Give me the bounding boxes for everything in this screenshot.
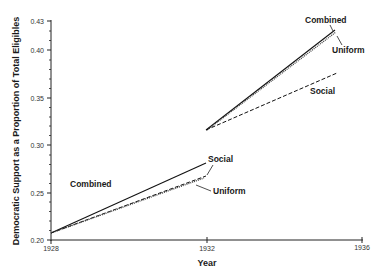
x-tick-label: 1928 (43, 245, 59, 252)
x-tick-label: 1932 (199, 245, 215, 252)
label-uniform-lower: Uniform (213, 186, 246, 196)
line-uniform-1932 (207, 32, 336, 130)
upper-segment: Combined Uniform Social (206, 15, 365, 130)
line-combined-1932 (206, 30, 335, 130)
y-tick-label: 0.35 (30, 95, 44, 102)
y-tick-label: 0.40 (30, 47, 44, 54)
x-tick-label: 1936 (354, 244, 370, 251)
y-axis: 0.20 0.25 0.30 0.35 0.40 0.43 Democratic… (11, 17, 51, 245)
y-tick-label: 0.20 (30, 237, 44, 244)
label-combined-lower: Combined (70, 179, 112, 189)
y-axis-title: Democratic Support as a Proportion of To… (11, 17, 21, 245)
x-axis-title: Year (197, 258, 217, 268)
label-combined-upper: Combined (305, 15, 347, 25)
x-axis: 1928 1932 1936 Year (43, 237, 370, 268)
label-social-upper: Social (310, 86, 335, 96)
y-tick-label: 0.30 (30, 142, 44, 149)
y-tick-label: 0.25 (30, 190, 44, 197)
label-uniform-upper: Uniform (332, 45, 365, 55)
label-social-lower: Social (208, 154, 233, 164)
chart: 0.20 0.25 0.30 0.35 0.40 0.43 Democratic… (0, 0, 382, 279)
y-tick-label: 0.43 (30, 18, 44, 25)
line-combined-1928 (51, 163, 206, 233)
lower-segment: Combined Social Uniform (51, 154, 246, 233)
